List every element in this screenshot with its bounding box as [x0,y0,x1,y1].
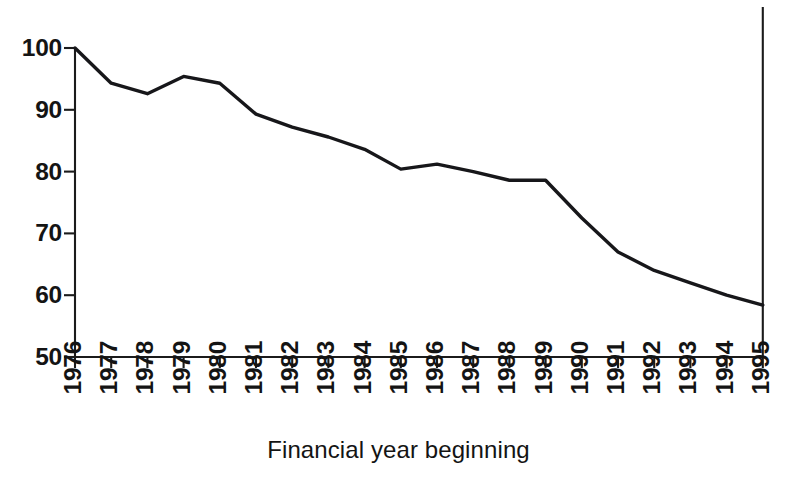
x-tick-label: 1993 [676,341,701,395]
x-tick-label: 1977 [97,341,122,395]
x-tick-label: 1987 [459,341,484,395]
x-tick-label: 1983 [314,341,339,395]
x-tick-label: 1982 [278,341,303,395]
x-tick-label: 1994 [712,341,737,395]
x-axis-title: Financial year beginning [0,436,797,464]
x-axis-tick-labels: 1976197719781979198019811982198319841985… [0,0,797,484]
x-tick-label: 1976 [61,341,86,395]
x-tick-label: 1985 [386,341,411,395]
x-tick-label: 1980 [205,341,230,395]
x-tick-label: 1981 [242,341,267,395]
x-tick-label: 1988 [495,341,520,395]
x-tick-label: 1984 [350,341,375,395]
x-tick-label: 1995 [748,341,773,395]
x-tick-label: 1978 [133,341,158,395]
line-chart-figure: 5060708090100 19761977197819791980198119… [0,0,797,484]
x-tick-label: 1989 [531,341,556,395]
x-tick-label: 1990 [567,341,592,395]
x-tick-label: 1992 [640,341,665,395]
x-tick-label: 1986 [423,341,448,395]
x-tick-label: 1991 [604,341,629,395]
x-tick-label: 1979 [169,341,194,395]
